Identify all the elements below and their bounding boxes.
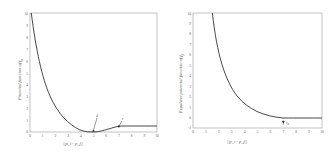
svg-text:9: 9: [189, 22, 191, 26]
svg-text:7: 7: [118, 134, 120, 138]
svg-text:4: 4: [26, 83, 28, 87]
svg-text:9: 9: [26, 24, 28, 28]
marker-d: [93, 130, 95, 132]
svg-text:-1: -1: [188, 126, 191, 130]
svg-text:1: 1: [189, 106, 191, 110]
y-axis-ticks: -1012 3456 78910: [188, 12, 192, 130]
plot-frame: [193, 13, 322, 128]
svg-text:0: 0: [189, 116, 191, 120]
y-axis-ticks: 0123 4567 8910: [25, 12, 29, 134]
r-alpha-arrow-icon: [282, 121, 285, 124]
svg-text:3: 3: [67, 134, 69, 138]
svg-text:6: 6: [189, 53, 191, 57]
x-axis-ticks: 0123 4567 8910: [192, 130, 324, 134]
left-chart-panel: 0123 4567 8910 0123 4567 8910 d r ||p_i …: [0, 0, 167, 153]
repulsive-curve: [212, 13, 322, 118]
y-axis-label: Potential function of fa: [17, 59, 24, 101]
svg-text:8: 8: [189, 32, 191, 36]
annotation-d-arrow: [94, 118, 98, 130]
svg-text:8: 8: [131, 134, 133, 138]
svg-text:7: 7: [189, 43, 191, 47]
svg-text:3: 3: [189, 85, 191, 89]
repulsive-potential-chart: -1012 3456 78910 0123 4567 8910 rα ||p_i…: [167, 0, 334, 153]
svg-text:6: 6: [105, 134, 107, 138]
svg-text:0: 0: [29, 134, 31, 138]
annotation-d: d: [96, 113, 99, 118]
x-axis-label: ||p_i - p_j||: [63, 141, 83, 146]
plot-frame: [30, 13, 157, 132]
svg-text:6: 6: [26, 60, 28, 64]
svg-text:9: 9: [308, 130, 310, 134]
right-chart-panel: -1012 3456 78910 0123 4567 8910 rα ||p_i…: [167, 0, 334, 153]
svg-text:3: 3: [26, 95, 28, 99]
annotation-r: r: [122, 116, 124, 121]
svg-text:8: 8: [26, 36, 28, 40]
svg-text:7: 7: [282, 130, 284, 134]
annotation-r-alpha: rα: [286, 120, 290, 126]
marker-r: [118, 126, 120, 128]
svg-text:10: 10: [320, 130, 324, 134]
potential-function-chart: 0123 4567 8910 0123 4567 8910 d r ||p_i …: [0, 0, 167, 153]
svg-text:0: 0: [192, 130, 194, 134]
svg-text:2: 2: [55, 134, 57, 138]
svg-text:10: 10: [155, 134, 159, 138]
y-axis-label: Repulsive potential function of fβ: [178, 54, 185, 115]
svg-text:2: 2: [26, 107, 28, 111]
svg-text:5: 5: [93, 134, 95, 138]
svg-text:10: 10: [188, 12, 192, 16]
svg-text:10: 10: [25, 12, 29, 16]
svg-text:2: 2: [218, 130, 220, 134]
svg-text:8: 8: [295, 130, 297, 134]
svg-text:5: 5: [26, 72, 28, 76]
svg-text:3: 3: [231, 130, 233, 134]
potential-curve: [31, 13, 157, 132]
svg-text:1: 1: [205, 130, 207, 134]
svg-text:0: 0: [26, 130, 28, 134]
svg-text:1: 1: [42, 134, 44, 138]
svg-text:4: 4: [80, 134, 82, 138]
x-axis-label: ||p_i - p_j||: [227, 139, 247, 144]
svg-text:6: 6: [270, 130, 272, 134]
svg-text:4: 4: [189, 74, 191, 78]
svg-text:5: 5: [257, 130, 259, 134]
svg-text:9: 9: [143, 134, 145, 138]
svg-text:2: 2: [189, 95, 191, 99]
svg-text:5: 5: [189, 64, 191, 68]
svg-text:1: 1: [26, 119, 28, 123]
annotation-r-arrow: [119, 121, 122, 126]
svg-text:7: 7: [26, 48, 28, 52]
svg-text:4: 4: [244, 130, 246, 134]
x-axis-ticks: 0123 4567 8910: [29, 134, 159, 138]
